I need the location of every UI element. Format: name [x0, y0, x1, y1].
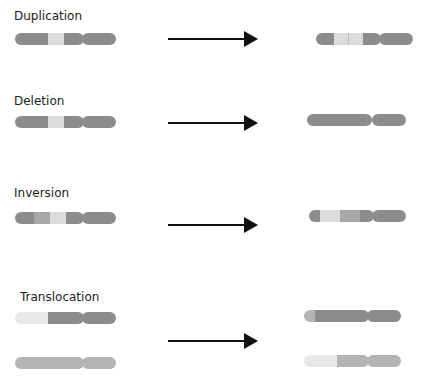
label-duplication: Duplication: [14, 9, 82, 23]
arrow-translocation: [168, 331, 258, 351]
chromosome-result-duplication: [315, 32, 419, 46]
label-deletion: Deletion: [14, 94, 64, 108]
chromosome-original-translocation-1: [14, 311, 118, 325]
chromosome-result-translocation-2: [303, 354, 407, 368]
chromosome-original-inversion: [14, 211, 118, 225]
chromosome-original-deletion: [14, 115, 118, 129]
arrow-duplication: [168, 29, 258, 49]
label-inversion: Inversion: [14, 186, 69, 200]
chromosome-result-deletion: [306, 113, 410, 127]
label-translocation: Translocation: [20, 290, 99, 304]
arrow-deletion: [168, 113, 258, 133]
chromosome-original-translocation-2: [14, 356, 118, 370]
chromosome-result-translocation-1: [303, 309, 407, 323]
chromosome-original-duplication: [14, 32, 118, 46]
chromosome-result-inversion: [308, 209, 412, 223]
arrow-inversion: [168, 215, 258, 235]
